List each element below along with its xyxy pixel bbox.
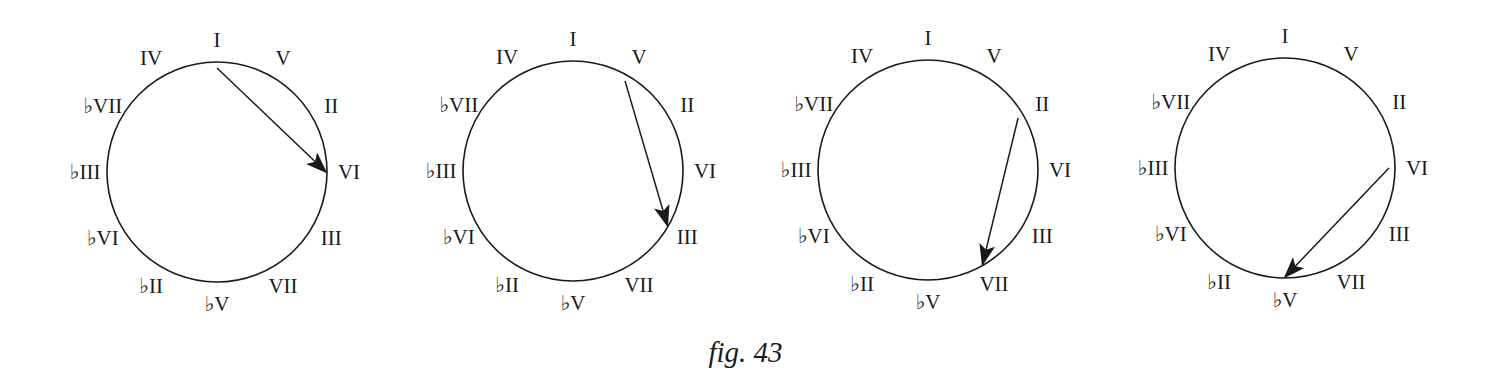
degree-label: ♭VI — [1155, 222, 1187, 246]
degree-label: II — [324, 94, 338, 118]
degree-label: IV — [140, 46, 162, 70]
degree-label: ♭II — [495, 273, 519, 297]
degree-label: I — [1282, 24, 1289, 48]
pitch-circle — [463, 61, 683, 281]
degree-label: ♭III — [70, 160, 101, 184]
degree-label: ♭II — [1207, 270, 1231, 294]
pitch-circle — [1175, 58, 1395, 278]
degree-label: VI — [1406, 156, 1428, 180]
degree-label: I — [214, 28, 221, 52]
diagram-1: IVIIVIIIIVII♭V♭II♭VI♭III♭VIIIV — [70, 28, 361, 316]
degree-label: II — [1392, 90, 1406, 114]
degree-label: III — [1389, 222, 1410, 246]
arrow-icon — [1285, 168, 1389, 277]
degree-label: ♭VII — [1151, 90, 1190, 114]
degree-label: ♭III — [426, 159, 457, 183]
degree-label: III — [1032, 224, 1053, 248]
degree-label: ♭VI — [443, 225, 475, 249]
arrow-icon — [217, 68, 326, 172]
degree-label: VII — [1336, 270, 1365, 294]
degree-label: ♭III — [1138, 156, 1169, 180]
degree-label: III — [321, 226, 342, 250]
degree-label: ♭II — [850, 272, 874, 296]
degree-label: V — [631, 45, 646, 69]
figure-caption: fig. 43 — [0, 336, 1491, 369]
degree-label: VI — [338, 160, 360, 184]
degree-label: ♭VI — [87, 226, 119, 250]
diagram-2: IVIIVIIIIVII♭V♭II♭VI♭III♭VIIIV — [426, 27, 717, 315]
degree-label: V — [1343, 42, 1358, 66]
degree-label: VII — [624, 273, 653, 297]
degree-label: ♭V — [204, 292, 229, 316]
degree-label: ♭V — [915, 290, 940, 314]
degree-label: ♭VII — [439, 93, 478, 117]
degree-label: ♭V — [1272, 288, 1297, 312]
degree-label: ♭III — [781, 158, 812, 182]
diagram-3: IVIIVIIIIVII♭V♭II♭VI♭III♭VIIIV — [781, 26, 1072, 314]
degree-label: VII — [979, 272, 1008, 296]
degree-label: IV — [1208, 42, 1230, 66]
degree-label: VII — [268, 274, 297, 298]
degree-label: ♭VII — [83, 94, 122, 118]
degree-label: ♭VI — [798, 224, 830, 248]
degree-label: ♭II — [139, 274, 163, 298]
degree-label: VI — [694, 159, 716, 183]
degree-label: ♭V — [560, 291, 585, 315]
degree-label: V — [275, 46, 290, 70]
degree-label: II — [1035, 92, 1049, 116]
degree-label: IV — [496, 45, 518, 69]
degree-label: ♭VII — [794, 92, 833, 116]
degree-label: IV — [851, 44, 873, 68]
degree-label: III — [677, 225, 698, 249]
arrow-icon — [625, 81, 667, 226]
pitch-circle — [107, 62, 327, 282]
degree-label: VI — [1049, 158, 1071, 182]
degree-label: I — [925, 26, 932, 50]
degree-label: I — [570, 27, 577, 51]
degree-label: II — [680, 93, 694, 117]
circle-of-fifths-diagrams: IVIIVIIIIVII♭V♭II♭VI♭III♭VIIIVIVIIVIIIIV… — [0, 0, 1491, 392]
arrow-icon — [983, 118, 1019, 264]
degree-label: V — [986, 44, 1001, 68]
diagram-4: IVIIVIIIIVII♭V♭II♭VI♭III♭VIIIV — [1138, 24, 1429, 312]
